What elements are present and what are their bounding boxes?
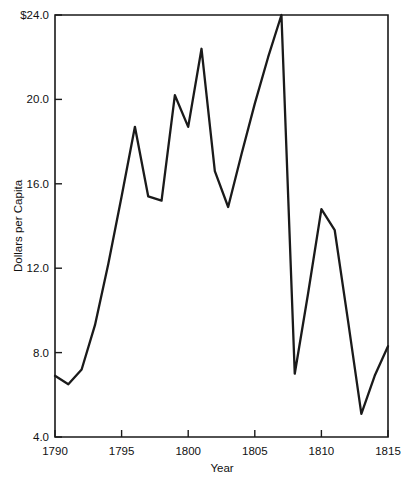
y-tick-label: 4.0 [33, 431, 49, 443]
chart-container: 4.08.012.016.020.0$24.0 1790179518001805… [0, 0, 414, 479]
x-axis-ticks [55, 430, 388, 437]
x-axis-tick-labels: 179017951800180518101815 [42, 445, 401, 457]
x-tick-label: 1790 [42, 445, 68, 457]
line-chart: 4.08.012.016.020.0$24.0 1790179518001805… [0, 0, 414, 479]
y-tick-label: 12.0 [27, 262, 49, 274]
y-tick-label: $24.0 [20, 9, 49, 21]
y-axis-tick-labels: 4.08.012.016.020.0$24.0 [20, 9, 49, 443]
y-tick-label: 16.0 [27, 178, 49, 190]
y-axis-title: Dollars per Capita [12, 179, 24, 272]
plot-frame [55, 15, 388, 437]
x-tick-label: 1800 [175, 445, 201, 457]
x-tick-label: 1810 [309, 445, 335, 457]
axis-frame [55, 15, 388, 437]
y-tick-label: 20.0 [27, 93, 49, 105]
x-tick-label: 1795 [109, 445, 135, 457]
y-axis-ticks [55, 15, 62, 437]
x-tick-label: 1815 [375, 445, 401, 457]
y-tick-label: 8.0 [33, 347, 49, 359]
x-tick-label: 1805 [242, 445, 268, 457]
x-axis-title: Year [210, 462, 233, 474]
data-series-line [55, 15, 388, 414]
